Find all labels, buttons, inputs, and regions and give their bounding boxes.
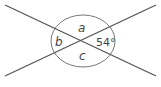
angle-label-b: b (55, 35, 63, 49)
angle-label-c: c (79, 49, 86, 63)
angle-diagram: a b c 54° (0, 0, 161, 87)
angle-label-54: 54° (96, 36, 116, 49)
angle-label-a: a (78, 21, 85, 35)
